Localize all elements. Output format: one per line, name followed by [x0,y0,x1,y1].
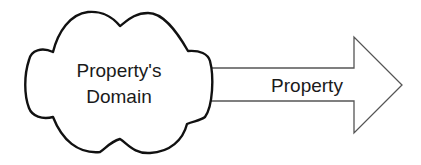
property-domain-diagram: Property Property's Domain [0,0,421,165]
domain-cloud: Property's Domain [25,12,212,153]
cloud-shape [25,12,212,153]
cloud-label-line1: Property's [77,60,162,81]
arrow-label: Property [271,75,343,96]
cloud-label-line2: Domain [86,86,151,107]
property-arrow: Property [205,37,402,133]
